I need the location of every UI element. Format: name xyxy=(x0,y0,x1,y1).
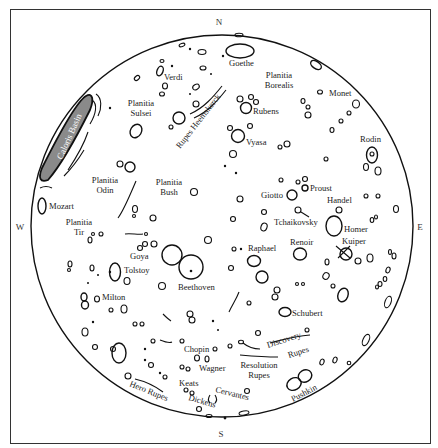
goethe-label: Goethe xyxy=(229,58,254,68)
crater-raphael: Raphael xyxy=(232,243,277,267)
crater-goethe: Goethe xyxy=(222,33,254,68)
crater-giotto: Giotto xyxy=(261,190,297,200)
schubert-label: Schubert xyxy=(292,308,323,318)
mozart-label: Mozart xyxy=(49,201,74,211)
planitia-bush-label-1: Planitia xyxy=(156,177,182,187)
milton-label: Milton xyxy=(102,292,126,302)
tolstoy-label: Tolstoy xyxy=(124,265,150,275)
vyasa-label: Vyasa xyxy=(246,137,267,147)
crater-goya: Goya xyxy=(130,241,157,261)
crater-wagner: Wagner xyxy=(195,355,226,373)
planitia-borealis-label-2: Borealis xyxy=(265,80,294,90)
scarp-central xyxy=(229,292,239,312)
planitia-borealis-label-1: Planitia xyxy=(266,70,292,80)
dickens-label: Dickens xyxy=(187,392,217,410)
homer-label: Homer xyxy=(344,224,368,234)
crater-rubens: Rubens xyxy=(237,95,279,117)
planitia-sulsei-label-1: Planitia xyxy=(128,98,154,108)
goya-label: Goya xyxy=(130,251,149,261)
proust-label: Proust xyxy=(310,183,333,193)
crater-handel: Handel xyxy=(327,195,352,213)
rubens-label: Rubens xyxy=(253,106,279,116)
keats-label: Keats xyxy=(179,378,199,388)
resolution-rupes-line xyxy=(240,355,278,357)
pushkin-label: Pushkin xyxy=(289,382,319,404)
crater-schubert: Schubert xyxy=(279,308,323,319)
compass-west: W xyxy=(16,222,25,232)
mercury-map: N S E W Caloris Basin Rupes Heemskerck H… xyxy=(0,0,438,448)
rupes-heemskerck: Rupes Heemskerck xyxy=(174,86,226,150)
planitia-tir-label-2: Tir xyxy=(74,227,84,237)
crater-homer: Homer xyxy=(326,216,368,236)
chopin-label: Chopin xyxy=(184,344,210,354)
crater-mozart: Mozart xyxy=(38,198,74,214)
tchaikovsky-label: Tchaikovsky xyxy=(274,217,318,227)
planitia-tir-label-1: Planitia xyxy=(66,217,92,227)
giotto-label: Giotto xyxy=(261,190,283,200)
crater-rodin: Rodin xyxy=(360,134,382,175)
monet-label: Monet xyxy=(329,88,352,98)
compass-north: N xyxy=(216,17,223,27)
crater-chopin: Chopin xyxy=(180,339,217,354)
rodin-label: Rodin xyxy=(360,134,382,144)
crater-kuiper: Kuiper xyxy=(336,236,366,264)
handel-label: Handel xyxy=(327,195,352,205)
rupes-heemskerck-label: Rupes Heemskerck xyxy=(174,91,223,150)
planitia-bush-label-2: Bush xyxy=(160,187,178,197)
planitia-sulsei-label-2: Sulsei xyxy=(130,108,152,118)
crater-beethoven: Beethoven xyxy=(159,245,216,292)
planitia-odin-label-1: Planitia xyxy=(92,175,118,185)
crater-proust: Proust xyxy=(279,177,333,194)
crater-milton: Milton xyxy=(81,292,126,309)
verdi-label: Verdi xyxy=(164,72,183,82)
discovery-rupes-label-2: Rupes xyxy=(287,344,311,360)
wagner-label: Wagner xyxy=(199,363,226,373)
compass-east: E xyxy=(417,222,423,232)
crater-dickens: Dickens xyxy=(184,388,218,412)
crater-renoir: Renoir xyxy=(290,237,314,260)
compass-south: S xyxy=(218,429,223,439)
crater-tchaikovsky: Tchaikovsky xyxy=(274,207,318,227)
caloris-basin: Caloris Basin xyxy=(40,94,101,188)
planitia-odin-label-2: Odin xyxy=(96,185,114,195)
scarp-tir xyxy=(125,234,143,235)
renoir-label: Renoir xyxy=(290,237,314,247)
crater-keats: Keats xyxy=(179,365,199,388)
kuiper-label: Kuiper xyxy=(342,236,366,246)
beethoven-label: Beethoven xyxy=(178,282,215,292)
hero-rupes-label: Hero Rupes xyxy=(128,379,170,404)
resolution-rupes-label-1: Resolution xyxy=(240,360,278,370)
crater-pushkin: Pushkin xyxy=(285,367,320,403)
crater-verdi: Verdi xyxy=(155,65,183,82)
crater-vyasa: Vyasa xyxy=(228,124,267,148)
raphael-label: Raphael xyxy=(248,243,277,253)
crater-monet: Monet xyxy=(309,59,352,98)
resolution-rupes-label-2: Rupes xyxy=(248,370,270,380)
cervantes-label: Cervantes xyxy=(215,384,251,402)
